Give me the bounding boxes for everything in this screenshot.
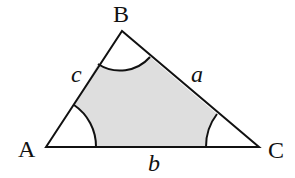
vertex-label-a: A bbox=[18, 137, 35, 161]
side-label-c: c bbox=[71, 62, 82, 86]
vertex-label-c: C bbox=[268, 138, 284, 162]
triangle-diagram: A B C a b c bbox=[0, 0, 295, 178]
vertex-label-b: B bbox=[113, 2, 129, 26]
side-label-a: a bbox=[191, 62, 203, 86]
side-label-b: b bbox=[148, 151, 160, 175]
